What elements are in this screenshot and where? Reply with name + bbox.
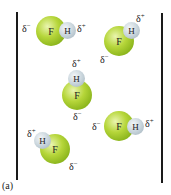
figure-caption: (a) [2, 180, 13, 191]
hydrogen-atom: H [127, 118, 144, 135]
hydrogen-atom: H [68, 70, 85, 87]
partial-negative-label: δ− [92, 121, 101, 132]
partial-positive-label: δ+ [77, 23, 86, 34]
partial-negative-label: δ− [69, 161, 78, 172]
partial-negative-label: δ− [22, 23, 31, 34]
hydrogen-atom: H [123, 22, 140, 39]
hydrogen-atom: H [59, 22, 76, 39]
partial-negative-label: δ− [73, 111, 82, 122]
partial-negative-label: δ− [100, 54, 109, 65]
partial-positive-label: δ+ [136, 13, 145, 24]
partial-positive-label: δ+ [145, 118, 154, 129]
hydrogen-atom: H [34, 132, 51, 149]
partial-positive-label: δ+ [72, 58, 81, 69]
left-wall [16, 12, 18, 180]
right-wall [161, 13, 163, 183]
